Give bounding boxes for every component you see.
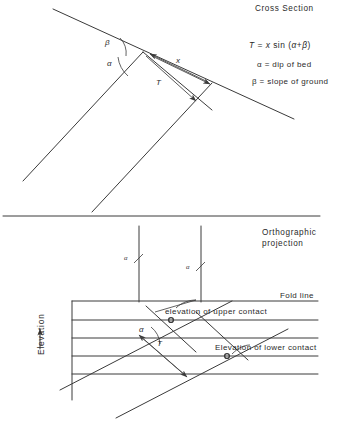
- upper-contact-annotation: elevation of upper contact: [165, 307, 267, 316]
- cross-section-title: Cross Section: [255, 4, 314, 13]
- beta-definition: β = slope of ground: [252, 77, 328, 86]
- lower-contact-line: [92, 83, 212, 212]
- cross-section-panel: Cross Section β α x T T = x sin (α+β) α …: [23, 4, 328, 212]
- formula-expression: T = x sin (α+β): [249, 40, 311, 50]
- ortho-thickness-label: T: [157, 339, 163, 348]
- upper-contact-line: [23, 52, 143, 181]
- fold-line-label: Fold line: [280, 291, 314, 300]
- orthographic-title-line2: projection: [262, 239, 304, 248]
- alpha-mark-lower: α: [186, 264, 190, 270]
- orthographic-title-line1: Orthographic: [262, 228, 317, 237]
- alpha-definition: α = dip of bed: [257, 60, 311, 69]
- x-measure-label: x: [175, 56, 181, 65]
- thickness-label: T: [156, 78, 162, 87]
- orthographic-panel: Orthographic projection α α Fold line El…: [36, 226, 318, 418]
- geology-diagram: Cross Section β α x T T = x sin (α+β) α …: [0, 0, 351, 425]
- alpha-mark-upper: α: [124, 255, 128, 261]
- ortho-alpha-label: α: [139, 325, 144, 334]
- lower-contact-annotation: Elevation of lower contact: [215, 343, 317, 352]
- elevation-axis-label: Elevation: [36, 313, 46, 355]
- ortho-thickness-arrow-down: [141, 337, 187, 377]
- alpha-angle-label: α: [107, 59, 112, 68]
- ortho-crossing-line-lower: [196, 312, 248, 360]
- beta-angle-label: β: [104, 38, 110, 47]
